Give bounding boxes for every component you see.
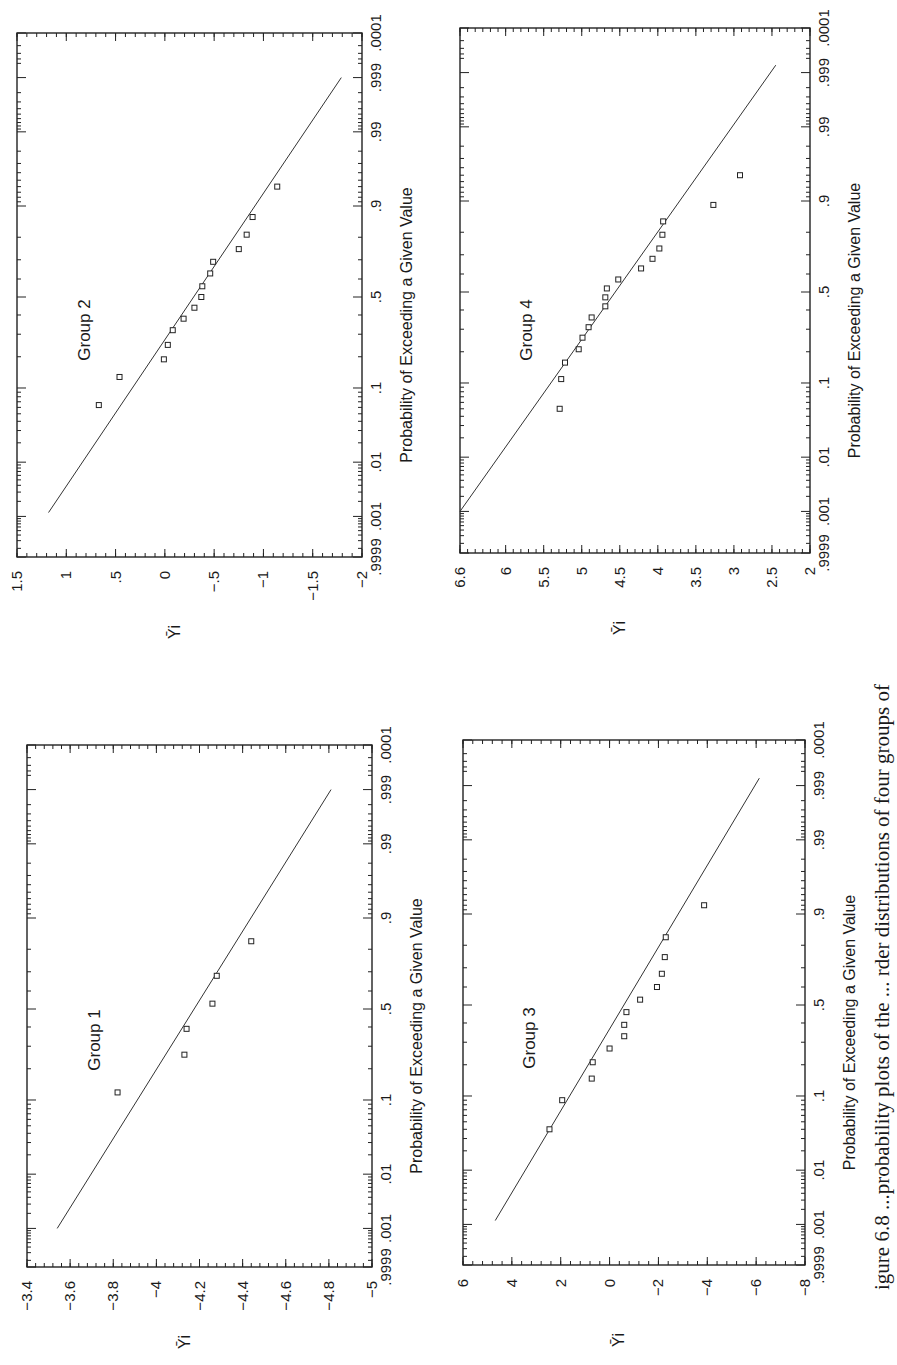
- value-tick-label: −3.8: [104, 1281, 121, 1311]
- prob-tick-label: .0001: [815, 9, 832, 47]
- data-point-marker: [210, 1001, 215, 1006]
- data-point-marker: [616, 277, 621, 282]
- prob-tick-label: .01: [815, 447, 832, 468]
- value-tick-label: −3.4: [18, 1281, 35, 1311]
- data-point-marker: [560, 1098, 565, 1103]
- panel-group-2: 1.51.50−.5−1−1.5−2.9999.999.99.9.5.1.01.…: [8, 14, 415, 639]
- prob-tick-label: .1: [815, 377, 832, 390]
- prob-tick-label: .99: [810, 829, 827, 850]
- data-point-marker: [576, 347, 581, 352]
- data-point-marker: [161, 357, 166, 362]
- prob-tick-label: .001: [367, 502, 384, 531]
- data-point-marker: [654, 985, 659, 990]
- prob-tick-label: .1: [367, 382, 384, 395]
- value-tick-label: 4: [649, 567, 666, 575]
- prob-tick-label: .5: [377, 1003, 394, 1016]
- value-tick-label: −2: [649, 1279, 666, 1296]
- prob-tick-label: .001: [377, 1214, 394, 1243]
- data-point-marker: [590, 1060, 595, 1065]
- data-point-marker: [638, 997, 643, 1002]
- data-point-marker: [663, 935, 668, 940]
- value-tick-label: −4.6: [277, 1281, 294, 1311]
- data-point-marker: [244, 232, 249, 237]
- data-point-marker: [702, 903, 707, 908]
- data-point-marker: [711, 202, 716, 207]
- data-point-marker: [650, 256, 655, 261]
- value-axis-label: Ȳi: [176, 1335, 193, 1349]
- data-point-marker: [659, 971, 664, 976]
- value-tick-label: −4.2: [191, 1281, 208, 1311]
- prob-tick-label: .999: [815, 58, 832, 87]
- value-tick-label: −4: [147, 1281, 164, 1298]
- data-point-marker: [115, 1090, 120, 1095]
- data-point-marker: [589, 1076, 594, 1081]
- value-tick-label: .5: [107, 571, 124, 584]
- prob-tick-label: .999: [810, 771, 827, 800]
- data-point-marker: [657, 246, 662, 251]
- value-tick-label: 0: [156, 571, 173, 579]
- prob-tick-label: .1: [810, 1090, 827, 1103]
- data-point-marker: [192, 305, 197, 310]
- probability-plot-figure: 1.51.50−.5−1−1.5−2.9999.999.99.9.5.1.01.…: [0, 0, 897, 1365]
- value-tick-label: −4.8: [320, 1281, 337, 1311]
- plot-frame: [17, 33, 362, 557]
- prob-tick-label: .9999: [377, 1248, 394, 1286]
- prob-tick-label: .01: [367, 452, 384, 473]
- prob-tick-label: .0001: [810, 721, 827, 759]
- value-tick-label: 3.5: [687, 567, 704, 588]
- data-point-marker: [557, 406, 562, 411]
- data-point-marker: [559, 377, 564, 382]
- panel-title: Group 4: [517, 299, 536, 360]
- fit-line: [495, 778, 759, 1220]
- prob-axis-label: Probability of Exceeding a Given Value: [841, 895, 858, 1171]
- prob-tick-label: .99: [367, 121, 384, 142]
- plot-frame: [463, 740, 805, 1265]
- data-point-marker: [200, 284, 205, 289]
- value-tick-label: 6: [454, 1279, 471, 1287]
- data-point-marker: [249, 939, 254, 944]
- caption-text: igure 6.8 ...probability plots of the ..…: [870, 684, 894, 1290]
- prob-axis-label: Probability of Exceeding a Given Value: [846, 183, 863, 459]
- plot-frame: [460, 28, 810, 553]
- prob-tick-label: .999: [367, 63, 384, 92]
- data-point-marker: [211, 259, 216, 264]
- value-tick-label: 4: [503, 1279, 520, 1287]
- data-point-marker: [208, 271, 213, 276]
- data-point-marker: [184, 1026, 189, 1031]
- panel-title: Group 1: [85, 1009, 104, 1070]
- value-tick-label: −3.6: [61, 1281, 78, 1311]
- data-point-marker: [170, 328, 175, 333]
- value-tick-label: −1.5: [304, 571, 321, 601]
- data-point-marker: [214, 973, 219, 978]
- value-tick-label: 4.5: [611, 567, 628, 588]
- prob-tick-label: .9: [377, 912, 394, 925]
- value-tick-label: 5: [573, 567, 590, 575]
- value-tick-label: 0: [601, 1279, 618, 1287]
- data-point-marker: [117, 374, 122, 379]
- value-tick-label: 5.5: [535, 567, 552, 588]
- data-point-marker: [603, 295, 608, 300]
- data-point-marker: [589, 315, 594, 320]
- prob-tick-label: .01: [810, 1160, 827, 1181]
- data-point-marker: [165, 342, 170, 347]
- fit-line: [49, 78, 342, 513]
- prob-tick-label: .9: [815, 195, 832, 208]
- data-point-marker: [603, 304, 608, 309]
- data-point-marker: [563, 360, 568, 365]
- prob-tick-label: .5: [815, 286, 832, 299]
- value-axis-label: Ȳi: [610, 1333, 627, 1347]
- value-tick-label: 2: [552, 1279, 569, 1287]
- data-point-marker: [580, 335, 585, 340]
- panel-group-3: 6420−2−4−6−8.9999.999.99.9.5.1.01.001.00…: [454, 721, 858, 1347]
- data-point-marker: [622, 1034, 627, 1039]
- panel-title: Group 2: [75, 299, 94, 360]
- data-point-marker: [236, 247, 241, 252]
- prob-tick-label: .001: [810, 1210, 827, 1239]
- data-point-marker: [181, 316, 186, 321]
- prob-tick-label: .99: [377, 833, 394, 854]
- value-axis-label: Ȳi: [166, 625, 183, 639]
- value-tick-label: 6: [497, 567, 514, 575]
- data-point-marker: [586, 325, 591, 330]
- value-tick-label: −.5: [205, 571, 222, 592]
- data-point-marker: [624, 1010, 629, 1015]
